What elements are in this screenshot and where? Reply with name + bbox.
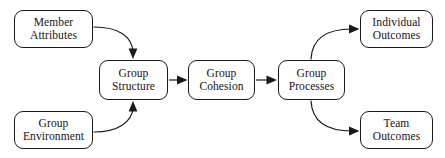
node-individual-outcomes: Individual Outcomes (360, 10, 433, 48)
node-label-line1: Group (39, 117, 69, 130)
edge-member-attributes-to-group-structure (94, 27, 137, 59)
node-label-line1: Group (207, 67, 237, 80)
node-label-line2: Outcomes (373, 29, 420, 42)
node-label-line2: Cohesion (199, 80, 243, 93)
node-label-line1: Individual (372, 16, 420, 29)
node-label-line2: Outcomes (373, 130, 420, 143)
node-group-structure: Group Structure (99, 60, 168, 100)
node-member-attributes: Member Attributes (14, 10, 93, 48)
edge-group-cohesion-to-group-processes (256, 75, 277, 84)
node-label-line1: Group (119, 67, 149, 80)
edge-group-processes-to-team-outcomes (311, 101, 360, 136)
node-label-line1: Group (297, 67, 327, 80)
node-label-line1: Team (384, 117, 410, 130)
node-team-outcomes: Team Outcomes (360, 111, 433, 149)
node-label-line2: Processes (289, 80, 335, 93)
edge-group-processes-to-individual-outcomes (311, 24, 360, 59)
node-label-line2: Structure (112, 80, 155, 93)
node-label-line2: Environment (23, 130, 84, 143)
edge-group-structure-to-group-cohesion (169, 75, 188, 84)
node-group-processes: Group Processes (278, 60, 345, 100)
node-label-line1: Member (34, 16, 74, 29)
node-group-environment: Group Environment (14, 111, 93, 149)
node-label-line2: Attributes (30, 29, 77, 42)
edge-group-environment-to-group-structure (94, 101, 137, 132)
flow-diagram: Member Attributes Group Environment Grou… (0, 0, 445, 158)
node-group-cohesion: Group Cohesion (188, 60, 255, 100)
